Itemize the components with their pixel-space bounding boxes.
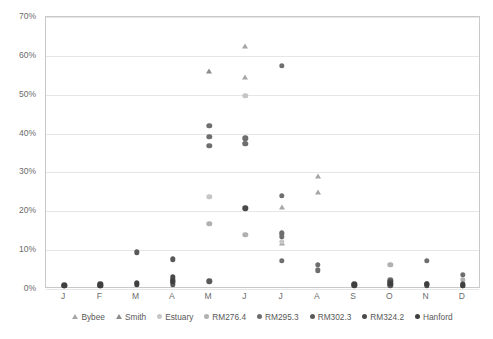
gridline	[46, 17, 479, 18]
data-point	[460, 283, 465, 288]
data-point	[279, 204, 285, 209]
data-point	[279, 231, 284, 236]
x-tick-label: M	[132, 292, 139, 301]
chart-legend: BybeeSmithEstuaryRM276.4RM295.3RM302.3RM…	[45, 309, 480, 325]
data-point	[424, 282, 429, 287]
legend-label: Hanford	[423, 313, 453, 321]
circle-marker-icon	[310, 314, 315, 319]
data-point	[315, 268, 320, 273]
data-point	[279, 239, 284, 244]
data-point	[206, 279, 211, 284]
x-tick-label: M	[205, 292, 212, 301]
plot-area	[45, 16, 480, 288]
legend-item-rm295-3[interactable]: RM295.3	[257, 313, 299, 321]
legend-item-smith[interactable]: Smith	[116, 313, 146, 321]
data-point	[206, 221, 211, 226]
data-point	[351, 282, 356, 287]
x-tick-label: D	[459, 292, 465, 301]
data-point	[170, 279, 175, 284]
data-point	[279, 234, 284, 239]
x-tick-label: F	[97, 292, 102, 301]
y-tick-label: 0%	[24, 284, 36, 293]
data-point	[279, 193, 284, 198]
legend-label: Estuary	[165, 313, 193, 321]
data-point	[243, 141, 248, 146]
data-point	[388, 282, 393, 287]
data-point	[243, 232, 248, 237]
data-point	[388, 281, 393, 286]
data-point	[170, 257, 175, 262]
circle-marker-icon	[362, 314, 367, 319]
data-point	[388, 262, 393, 267]
data-point	[206, 69, 212, 74]
gridline	[46, 56, 479, 57]
data-point	[424, 258, 429, 263]
data-point	[206, 194, 211, 199]
circle-marker-icon	[257, 314, 262, 319]
legend-label: RM295.3	[265, 313, 299, 321]
data-point	[98, 283, 103, 288]
x-tick-label: J	[279, 292, 283, 301]
y-tick-label: 50%	[19, 89, 36, 98]
data-point	[206, 134, 211, 139]
legend-item-bybee[interactable]: Bybee	[72, 313, 105, 321]
data-point	[315, 190, 321, 195]
data-point	[170, 277, 175, 282]
legend-item-rm324-2[interactable]: RM324.2	[362, 313, 404, 321]
legend-label: RM276.4	[212, 313, 246, 321]
legend-item-estuary[interactable]: Estuary	[157, 313, 193, 321]
data-point	[98, 281, 103, 286]
legend-item-hanford[interactable]: Hanford	[415, 313, 453, 321]
x-tick-label: N	[423, 292, 429, 301]
x-tick-label: A	[169, 292, 175, 301]
legend-item-rm302-3[interactable]: RM302.3	[310, 313, 352, 321]
gridline	[46, 95, 479, 96]
y-tick-label: 30%	[19, 167, 36, 176]
data-point	[388, 279, 393, 284]
circle-marker-icon	[204, 314, 209, 319]
data-point	[134, 282, 139, 287]
y-tick-label: 70%	[19, 12, 36, 21]
data-point	[424, 282, 429, 287]
data-point	[351, 282, 356, 287]
data-point	[279, 231, 284, 236]
data-point	[206, 143, 211, 148]
data-point	[170, 282, 175, 287]
data-point	[134, 280, 139, 285]
data-point	[460, 282, 465, 287]
x-tick-label: J	[242, 292, 246, 301]
data-point	[388, 278, 393, 283]
data-point	[460, 281, 465, 286]
circle-marker-icon	[415, 314, 420, 319]
data-point	[242, 138, 248, 143]
legend-item-rm276-4[interactable]: RM276.4	[204, 313, 246, 321]
gridline	[46, 134, 479, 135]
data-point	[460, 272, 465, 277]
y-tick-label: 10%	[19, 245, 36, 254]
data-point	[279, 258, 284, 263]
data-point	[460, 277, 465, 282]
data-point	[98, 282, 103, 287]
data-point	[315, 262, 320, 267]
x-tick-label: A	[314, 292, 320, 301]
gridline	[46, 289, 479, 290]
gridline	[46, 211, 479, 212]
circle-marker-icon	[157, 314, 162, 319]
data-point	[315, 173, 321, 178]
legend-label: Bybee	[81, 313, 105, 321]
data-point	[279, 241, 285, 246]
y-axis: 0%10%20%30%40%50%60%70%	[0, 0, 42, 339]
data-point	[61, 283, 66, 288]
data-point	[243, 205, 248, 210]
legend-label: RM302.3	[318, 313, 352, 321]
data-point	[206, 123, 211, 128]
scatter-chart: 0%10%20%30%40%50%60%70% JFMAMJJASOND Byb…	[0, 0, 493, 339]
data-point	[424, 281, 429, 286]
y-tick-label: 60%	[19, 51, 36, 60]
legend-label: Smith	[125, 313, 146, 321]
x-tick-label: O	[386, 292, 393, 301]
triangle-marker-icon	[72, 314, 78, 319]
y-tick-label: 40%	[19, 128, 36, 137]
data-point	[243, 136, 248, 141]
gridline	[46, 172, 479, 173]
